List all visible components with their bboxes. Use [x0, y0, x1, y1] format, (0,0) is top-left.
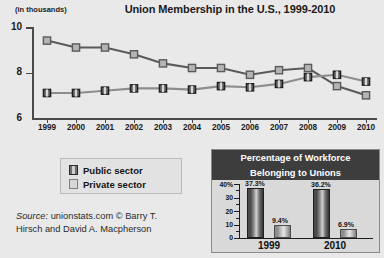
inset-y-tick: [234, 184, 239, 185]
inset-y-label-0: 0: [211, 234, 233, 241]
inset-y-minor-tick: [236, 190, 239, 191]
inset-bar-chart: Percentage of Workforce Belonging to Uni…: [211, 149, 380, 253]
inset-bar-2010-public: [313, 189, 330, 238]
inset-y-tick: [234, 198, 239, 199]
source-line-2: Hirsch and David A. Macpherson: [16, 224, 151, 234]
inset-y-label-20: 20: [211, 208, 233, 215]
inset-value-2010-private: 6.9%: [338, 221, 354, 228]
line-series-plot: [0, 0, 384, 135]
inset-y-axis-line: [239, 184, 240, 238]
source-line-1: unionstats.com © Barry T.: [48, 211, 157, 221]
inset-value-1999-private: 9.4%: [272, 217, 288, 224]
source-prefix: Source:: [16, 211, 48, 221]
chart-legend: Public sector Private sector: [60, 158, 182, 194]
inset-bar-1999-private: [274, 225, 291, 238]
legend-item-private[interactable]: Private sector: [69, 177, 146, 191]
inset-bar-1999-public: [247, 188, 264, 238]
public-sector-swatch-icon: [69, 165, 78, 175]
inset-x-label-1999: 1999: [244, 240, 294, 251]
inset-y-label-40: 40%: [211, 181, 233, 188]
inset-y-label-10: 10: [211, 221, 233, 228]
inset-value-2010-public: 36.2%: [311, 181, 331, 188]
inset-y-minor-tick: [236, 204, 239, 205]
inset-y-tick: [234, 211, 239, 212]
inset-title-line-2: Belonging to Unions: [212, 165, 379, 180]
inset-y-tick: [234, 238, 239, 239]
legend-label-public: Public sector: [83, 165, 143, 176]
private-sector-swatch-icon: [69, 179, 78, 189]
source-credit: Source: unionstats.com © Barry T. Hirsch…: [16, 210, 211, 236]
inset-y-minor-tick: [236, 231, 239, 232]
inset-x-label-2010: 2010: [310, 240, 360, 251]
legend-item-public[interactable]: Public sector: [69, 163, 143, 177]
legend-label-private: Private sector: [83, 179, 146, 190]
inset-value-1999-public: 37.3%: [245, 180, 265, 187]
inset-title-line-1: Percentage of Workforce: [212, 150, 379, 165]
chart-canvas: Union Membership in the U.S., 1999-2010 …: [0, 0, 384, 258]
inset-bar-2010-private: [340, 229, 357, 238]
public-sector-line: [47, 75, 366, 93]
inset-y-label-30: 30: [211, 194, 233, 201]
inset-y-tick: [234, 225, 239, 226]
inset-header: Percentage of Workforce Belonging to Uni…: [212, 150, 379, 180]
inset-y-minor-tick: [236, 218, 239, 219]
